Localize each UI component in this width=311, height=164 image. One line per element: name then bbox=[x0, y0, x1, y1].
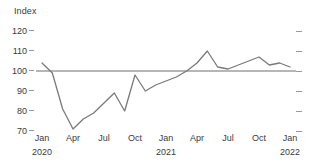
x-tick-oct-2020: Oct bbox=[128, 133, 142, 144]
x-tick-apr-2021: Apr bbox=[190, 133, 204, 144]
x-tick-jan-2022: Jan 2022 bbox=[280, 133, 300, 158]
index-line-chart: Index 120 110 100 90 80 70 Jan 2020 Apr … bbox=[0, 0, 311, 164]
x-tick-jul-2021: Jul bbox=[222, 133, 234, 144]
x-tick-apr-2020-month: Apr bbox=[66, 133, 80, 144]
x-tick-jan-2021-year: 2021 bbox=[156, 147, 176, 158]
x-tick-jul-2020: Jul bbox=[98, 133, 110, 144]
x-tick-apr-2020: Apr bbox=[66, 133, 80, 144]
x-tick-oct-2020-month: Oct bbox=[128, 133, 142, 144]
x-tick-jan-2020-year: 2020 bbox=[32, 147, 52, 158]
x-tick-oct-2021: Oct bbox=[252, 133, 266, 144]
x-tick-jan-2022-month: Jan bbox=[280, 133, 300, 144]
x-tick-apr-2021-month: Apr bbox=[190, 133, 204, 144]
x-tick-jul-2021-month: Jul bbox=[222, 133, 234, 144]
x-tick-jan-2021-month: Jan bbox=[156, 133, 176, 144]
x-tick-oct-2021-month: Oct bbox=[252, 133, 266, 144]
x-tick-jan-2020-month: Jan bbox=[32, 133, 52, 144]
x-tick-jul-2020-month: Jul bbox=[98, 133, 110, 144]
x-tick-jan-2022-year: 2022 bbox=[280, 147, 300, 158]
x-tick-jan-2020: Jan 2020 bbox=[32, 133, 52, 158]
x-tick-jan-2021: Jan 2021 bbox=[156, 133, 176, 158]
index-series-line bbox=[42, 51, 290, 129]
